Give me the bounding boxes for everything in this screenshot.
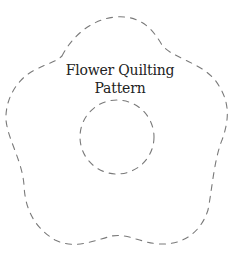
- inner-circle-outline: [80, 100, 154, 174]
- quilting-pattern-canvas: Flower Quilting Pattern: [0, 0, 240, 262]
- pattern-drawing: [0, 0, 240, 262]
- pattern-title-line2: Pattern: [0, 79, 240, 97]
- outer-flower-outline: [6, 17, 227, 245]
- pattern-title-line1: Flower Quilting: [0, 61, 240, 79]
